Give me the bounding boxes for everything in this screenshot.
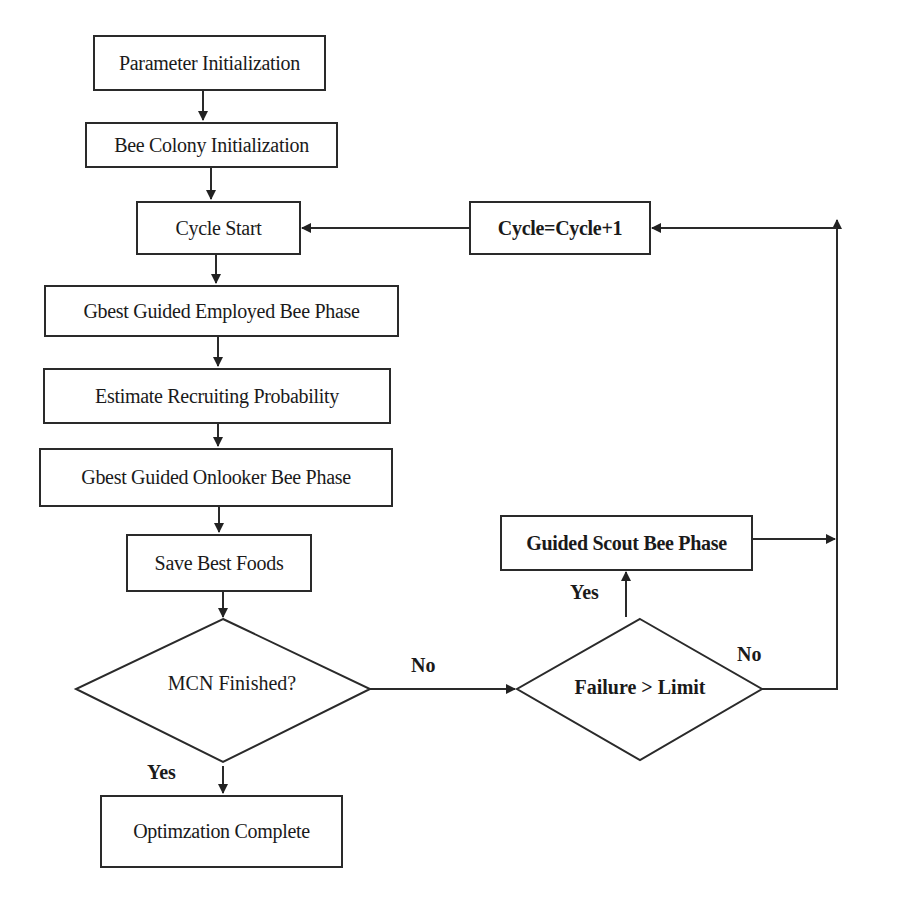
cycle-start-box: Cycle Start	[136, 201, 301, 255]
mcn-finished-decision: MCN Finished?	[168, 672, 296, 695]
optimization-complete-label: Optimzation Complete	[133, 820, 310, 843]
guided-scout-bee-phase-label: Guided Scout Bee Phase	[526, 532, 727, 555]
save-best-foods-label: Save Best Foods	[155, 552, 284, 575]
bee-colony-initialization-label: Bee Colony Initialization	[114, 134, 309, 157]
cycle-increment-box: Cycle=Cycle+1	[469, 201, 651, 255]
failure-no-label: No	[737, 643, 761, 666]
save-best-foods-box: Save Best Foods	[126, 534, 312, 592]
bee-colony-initialization-box: Bee Colony Initialization	[85, 122, 338, 168]
cycle-increment-label: Cycle=Cycle+1	[498, 217, 622, 240]
recruiting-probability-label: Estimate Recruiting Probability	[95, 385, 339, 408]
mcn-yes-label: Yes	[147, 761, 176, 784]
parameter-initialization-label: Parameter Initialization	[119, 52, 300, 75]
onlooker-bee-phase-box: Gbest Guided Onlooker Bee Phase	[39, 448, 393, 507]
employed-bee-phase-box: Gbest Guided Employed Bee Phase	[44, 285, 399, 337]
recruiting-probability-box: Estimate Recruiting Probability	[43, 368, 391, 424]
onlooker-bee-phase-label: Gbest Guided Onlooker Bee Phase	[81, 466, 351, 489]
failure-limit-decision: Failure > Limit	[574, 676, 705, 699]
employed-bee-phase-label: Gbest Guided Employed Bee Phase	[83, 300, 359, 323]
guided-scout-bee-phase-box: Guided Scout Bee Phase	[500, 515, 753, 571]
mcn-no-label: No	[411, 654, 435, 677]
cycle-start-label: Cycle Start	[175, 217, 261, 240]
optimization-complete-box: Optimzation Complete	[100, 795, 343, 868]
failure-yes-label: Yes	[570, 581, 599, 604]
parameter-initialization-box: Parameter Initialization	[93, 35, 326, 91]
